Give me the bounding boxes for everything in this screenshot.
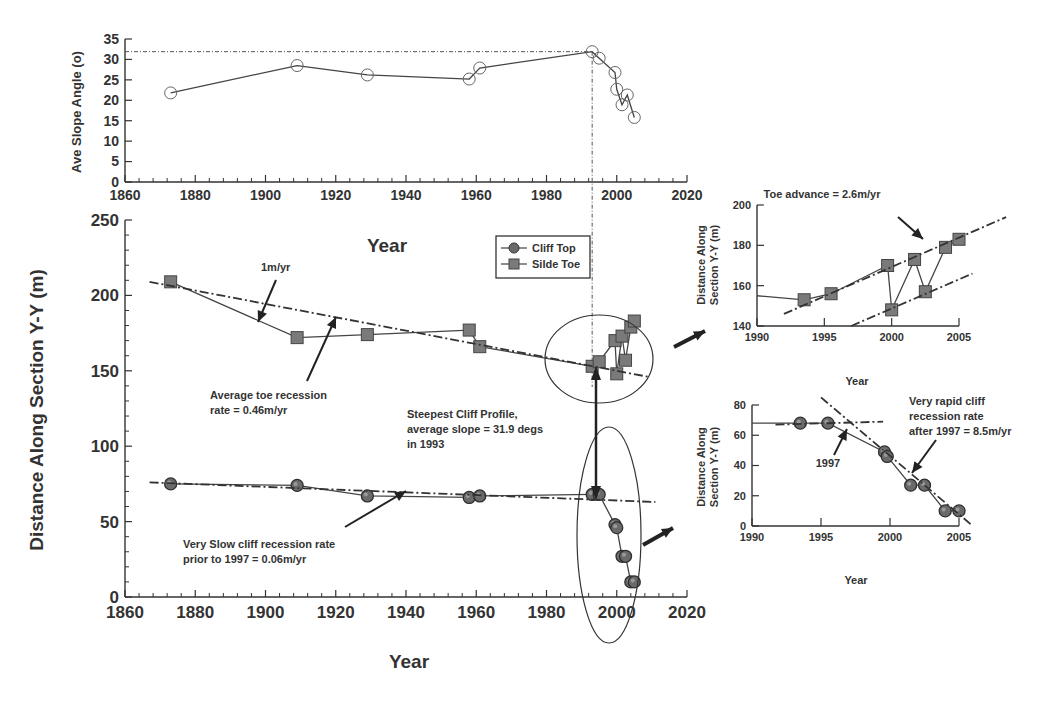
y-tick-label: 0 xyxy=(740,520,746,532)
y-tick-label: 180 xyxy=(733,239,751,251)
annotation-rapid-3: after 1997 = 8.5m/yr xyxy=(909,425,1012,437)
sphere-highlight xyxy=(622,553,626,557)
data-point-sphere xyxy=(620,550,632,562)
data-point-sphere xyxy=(291,479,303,491)
x-tick-label: 1960 xyxy=(461,187,492,203)
data-point-sphere xyxy=(939,505,951,517)
x-tick-label: 2000 xyxy=(598,603,636,622)
data-point-square xyxy=(463,324,475,336)
sphere-highlight xyxy=(942,507,946,511)
sphere-highlight xyxy=(589,491,593,495)
annotation-steepest-3: in 1993 xyxy=(407,438,444,450)
y-tick-label: 20 xyxy=(734,490,746,502)
annotation-steepest-1: Steepest Cliff Profile, xyxy=(407,408,518,420)
slope-y-axis-label: Ave Slope Angle (o) xyxy=(69,51,84,173)
y-tick-label: 100 xyxy=(91,437,119,456)
x-tick-label: 2000 xyxy=(878,531,902,543)
series-line xyxy=(171,52,635,118)
y-tick-label: 35 xyxy=(103,31,119,47)
y-tick-label: 30 xyxy=(103,51,119,67)
x-tick-label: 1940 xyxy=(390,187,421,203)
x-tick-label: 1900 xyxy=(250,187,281,203)
data-point-square xyxy=(798,294,810,306)
sphere-highlight xyxy=(294,482,298,486)
distance-main-chart: 1860188019001920194019601980200020200501… xyxy=(91,211,706,643)
x-tick-label: 1880 xyxy=(180,187,211,203)
y-tick-label: 10 xyxy=(103,133,119,149)
inset1-x-label: Year xyxy=(845,375,869,387)
y-tick-label: 200 xyxy=(733,199,751,211)
x-tick-label: 1900 xyxy=(247,603,285,622)
inset2-y-label-2: Section Y-Y (m) xyxy=(708,427,720,508)
x-tick-label: 2000 xyxy=(601,187,632,203)
x-tick-label: 1980 xyxy=(531,187,562,203)
annotation-toe-recession-1: Average toe recession xyxy=(210,389,327,401)
y-tick-label: 80 xyxy=(734,399,746,411)
y-tick-label: 20 xyxy=(103,92,119,108)
inset2-y-label-1: Distance Along xyxy=(695,427,707,507)
x-tick-label: 1940 xyxy=(387,603,425,622)
sphere-highlight xyxy=(364,492,368,496)
inset1-y-label-1: Distance Along xyxy=(695,225,707,305)
main-x-axis-label: Year xyxy=(389,651,430,672)
sphere-highlight xyxy=(797,420,801,424)
data-point-sphere xyxy=(611,522,623,534)
x-tick-label: 2000 xyxy=(879,331,903,343)
inset2-x-label: Year xyxy=(844,574,868,586)
data-point-sphere xyxy=(905,479,917,491)
y-tick-label: 0 xyxy=(111,174,119,190)
x-tick-label: 1990 xyxy=(745,331,769,343)
legend-cliff-top: Cliff Top xyxy=(532,242,576,254)
x-tick-label: 1990 xyxy=(740,531,764,543)
x-tick-label: 2005 xyxy=(947,331,971,343)
x-tick-label: 1995 xyxy=(812,331,836,343)
main-year-title: Year xyxy=(367,235,408,256)
x-tick-label: 2005 xyxy=(947,531,971,543)
y-tick-label: 50 xyxy=(100,513,119,532)
data-point-square xyxy=(620,354,632,366)
slide-toe-marker-icon xyxy=(509,259,519,269)
y-tick-label: 160 xyxy=(733,280,751,292)
y-tick-label: 0 xyxy=(110,588,119,607)
x-tick-label: 1980 xyxy=(528,603,566,622)
y-tick-label: 15 xyxy=(103,113,119,129)
y-tick-label: 40 xyxy=(734,459,746,471)
x-tick-label: 1995 xyxy=(809,531,833,543)
trend-line xyxy=(851,274,972,326)
annotation-toe-recession-2: rate = 0.46m/yr xyxy=(210,404,288,416)
figure: 1860188019001920194019601980200020200510… xyxy=(0,0,1050,701)
annotation-steepest-2: average slope = 31.9 degs xyxy=(407,423,543,435)
y-tick-label: 25 xyxy=(103,72,119,88)
y-tick-label: 5 xyxy=(111,153,119,169)
x-tick-label: 1960 xyxy=(457,603,495,622)
x-tick-label: 1920 xyxy=(317,603,355,622)
annotation-slow-recession-2: prior to 1997 = 0.06m/yr xyxy=(183,553,307,565)
y-tick-label: 200 xyxy=(91,286,119,305)
x-tick-label: 2020 xyxy=(668,603,706,622)
annotation-rapid-2: recession rate xyxy=(909,410,984,422)
sphere-highlight xyxy=(613,524,617,528)
y-tick-label: 250 xyxy=(91,211,119,230)
data-point-square xyxy=(361,329,373,341)
legend: Cliff Top Silde Toe xyxy=(496,236,590,278)
toe-advance-inset-chart: 1990199520002005140160180200 xyxy=(733,199,1006,343)
legend-slide-toe: Silde Toe xyxy=(532,258,580,270)
annotation-1myr: 1m/yr xyxy=(261,261,291,273)
y-tick-label: 60 xyxy=(734,429,746,441)
y-tick-label: 150 xyxy=(91,362,119,381)
x-tick-label: 1920 xyxy=(320,187,351,203)
inset1-y-label-2: Section Y-Y (m) xyxy=(708,225,720,306)
chart-canvas: 1860188019001920194019601980200020200510… xyxy=(0,0,1050,701)
annotation-rapid-1: Very rapid cliff xyxy=(909,395,985,407)
annotation-slow-recession-1: Very Slow cliff recession rate xyxy=(183,538,335,550)
cliff-top-marker-icon xyxy=(509,243,519,253)
sphere-highlight xyxy=(907,482,911,486)
x-tick-label: 2020 xyxy=(671,187,702,203)
data-point-square xyxy=(474,341,486,353)
series-line xyxy=(171,282,635,374)
data-point-square xyxy=(291,332,303,344)
y-tick-label: 140 xyxy=(733,320,751,332)
inset1-title: Toe advance = 2.6m/yr xyxy=(764,188,882,200)
main-y-axis-label: Distance Along Section Y-Y (m) xyxy=(26,269,47,551)
data-point-square xyxy=(593,356,605,368)
